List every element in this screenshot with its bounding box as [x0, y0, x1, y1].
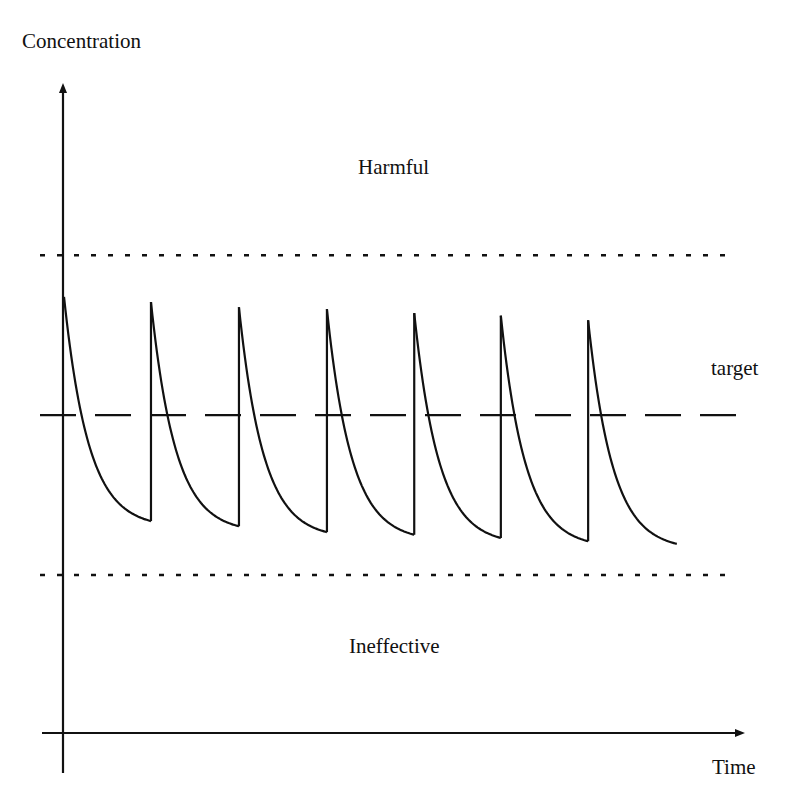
- ineffective-zone-label: Ineffective: [349, 634, 440, 658]
- harmful-zone-label: Harmful: [358, 155, 429, 179]
- decay-segment: [501, 316, 588, 542]
- concentration-time-diagram: Concentration Time Harmful target Ineffe…: [0, 0, 803, 812]
- decay-segment: [414, 313, 501, 538]
- target-label: target: [711, 356, 759, 380]
- x-axis-label: Time: [712, 755, 756, 779]
- concentration-curve: [64, 297, 677, 544]
- decay-segment: [588, 320, 677, 544]
- decay-segment: [327, 309, 414, 535]
- decay-segment: [64, 297, 151, 521]
- decay-segment: [239, 307, 327, 532]
- y-axis-label: Concentration: [22, 29, 141, 53]
